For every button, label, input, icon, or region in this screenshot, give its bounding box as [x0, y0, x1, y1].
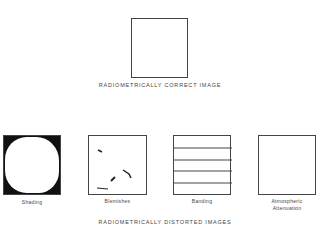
blemish-marks [89, 136, 148, 196]
correct-image-caption: RADIOMETRICALLY CORRECT IMAGE [90, 82, 230, 88]
shading-label: Shading [3, 199, 61, 205]
distorted-images-caption: RADIOMETRICALLY DISTORTED IMAGES [80, 219, 250, 225]
atmospheric-label: Atmospheric [258, 198, 316, 204]
banding-box [173, 135, 231, 195]
attenuation-label: Attenuation [258, 205, 316, 211]
banding-label: Banding [173, 198, 231, 204]
blemishes-box [88, 135, 147, 195]
blemishes-label: Blemishes [88, 198, 147, 204]
correct-image-box [131, 18, 188, 78]
banding-lines [174, 136, 232, 196]
atmospheric-box [258, 135, 316, 195]
shading-bright-area [5, 137, 59, 193]
shading-box [3, 135, 61, 195]
